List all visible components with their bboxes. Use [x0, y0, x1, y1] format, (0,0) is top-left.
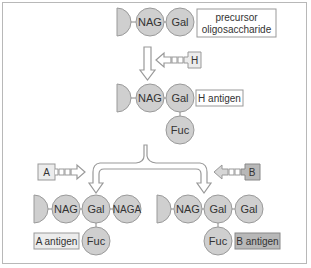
- sugar-label: NAG: [138, 92, 162, 104]
- enzyme-label: A: [43, 167, 50, 178]
- left-arrow-icon: [214, 165, 228, 179]
- sugar-label: Gal: [209, 203, 226, 215]
- right-arrow-icon: [71, 165, 85, 179]
- sugar-label: Gal: [171, 16, 188, 28]
- antigen-diagram: .sugar { fill: #cfcfcf; stroke: #9a9a9a;…: [0, 0, 311, 268]
- enzyme-b: B: [214, 164, 260, 180]
- sugar-label: NAG: [176, 203, 200, 215]
- membrane-anchor-icon: [117, 8, 131, 36]
- membrane-anchor-icon: [117, 84, 131, 112]
- sugar-label: Gal: [240, 203, 257, 215]
- precursor-label-line1: precursor: [215, 12, 258, 23]
- sugar-label: Gal: [87, 203, 104, 215]
- enzyme-label: H: [191, 55, 198, 66]
- sugar-label: Gal: [171, 92, 188, 104]
- precursor-chain: NAG Gal: [117, 8, 194, 36]
- b-antigen-label: B antigen: [236, 236, 278, 247]
- branch-arrow-icon: [89, 145, 211, 193]
- sugar-label: NAG: [54, 203, 78, 215]
- precursor-label-line2: oligosaccharide: [202, 24, 272, 35]
- enzyme-a: A: [38, 164, 85, 180]
- enzyme-label: B: [249, 167, 256, 178]
- sugar-label: Fuc: [209, 235, 228, 247]
- enzyme-h: H: [156, 52, 201, 68]
- left-arrow-icon: [156, 53, 171, 67]
- sugar-label: Fuc: [171, 124, 190, 136]
- membrane-anchor-icon: [34, 195, 48, 223]
- h-antigen-chain: NAG Gal Fuc: [117, 84, 194, 144]
- h-antigen-label: H antigen: [198, 93, 241, 104]
- sugar-label: NAGA: [113, 204, 142, 215]
- sugar-label: NAG: [138, 16, 162, 28]
- membrane-anchor-icon: [157, 195, 171, 223]
- a-antigen-label: A antigen: [36, 236, 78, 247]
- sugar-label: Fuc: [87, 235, 106, 247]
- down-arrow-icon: [140, 47, 155, 80]
